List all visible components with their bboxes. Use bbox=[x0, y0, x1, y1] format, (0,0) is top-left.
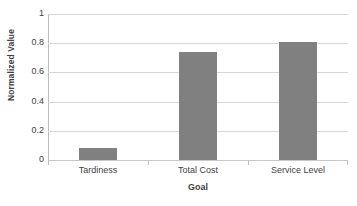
y-axis-tick-label: 0.6 bbox=[4, 67, 44, 76]
y-axis-tick-label: 0.4 bbox=[4, 97, 44, 106]
gridline bbox=[48, 14, 348, 15]
y-axis-tick-label: 0 bbox=[4, 155, 44, 164]
y-axis-tick-label: 1 bbox=[4, 9, 44, 18]
bar bbox=[79, 148, 117, 160]
y-axis-tick-label: 0.2 bbox=[4, 126, 44, 135]
bar-chart: Normalized Value 10.80.60.40.20 Tardines… bbox=[0, 0, 357, 206]
y-axis-tick-label: 0.8 bbox=[4, 38, 44, 47]
x-axis-tick-label: Total Cost bbox=[148, 166, 248, 176]
x-axis-tick-labels: TardinessTotal CostService Level bbox=[48, 166, 348, 180]
x-axis-tick bbox=[248, 160, 249, 165]
x-axis-tick bbox=[148, 160, 149, 165]
x-axis-title: Goal bbox=[48, 182, 348, 192]
x-axis-tick bbox=[347, 160, 348, 165]
x-axis-tick-label: Service Level bbox=[248, 166, 348, 176]
bar bbox=[179, 52, 217, 160]
x-axis-tick bbox=[48, 160, 49, 165]
x-axis-tick-label: Tardiness bbox=[48, 166, 148, 176]
plot-area bbox=[48, 14, 348, 160]
gridline bbox=[48, 160, 348, 161]
bar bbox=[279, 42, 317, 160]
y-axis-tick-labels: 10.80.60.40.20 bbox=[0, 14, 44, 160]
